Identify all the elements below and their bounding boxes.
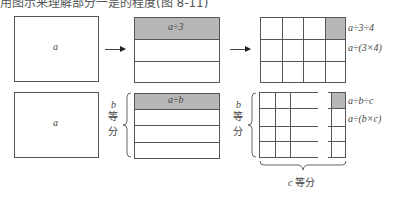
bottom-brace-label-text: 等分 [295, 177, 315, 189]
col-divider [325, 18, 326, 82]
caption-fragment: 用图示来理解部分一是的程度(图 8-11) [0, 0, 208, 10]
brace-label-deng-2: 等 [233, 111, 243, 123]
label-a-div-3x4: a÷(3×4) [348, 42, 382, 53]
arrow-icon-2 [230, 49, 250, 50]
brace-label-b-2: b [236, 99, 241, 110]
brace-label-b-1: b [111, 99, 116, 110]
brace-label-deng-1: 等 [108, 111, 118, 123]
label-a-div-3: a÷3 [168, 21, 184, 32]
brace-label-fen-2: 分 [233, 126, 243, 138]
grid-b-by-c [258, 91, 350, 161]
grid-3x4 [260, 17, 346, 83]
brace-label-fen-1: 分 [108, 126, 118, 138]
label-a-div-bxc: a÷(b×c) [348, 113, 381, 124]
col-divider [303, 18, 304, 82]
arrow-icon-1 [105, 49, 125, 50]
row-divider [135, 109, 219, 110]
left-brace-icon-2 [247, 92, 257, 158]
label-a-div-b: a÷b [168, 94, 184, 105]
row-divider [135, 61, 219, 62]
bottom-brace-icon [259, 160, 347, 172]
left-brace-icon-1 [122, 92, 132, 158]
label-a-div-b-div-c: a÷b÷c [348, 95, 373, 106]
shaded-cell [325, 18, 345, 39]
row-divider [135, 39, 219, 40]
label-a-top: a [53, 41, 58, 52]
label-a-div-3-div-4: a÷3÷4 [348, 22, 374, 33]
row-divider [135, 142, 219, 143]
row-divider [135, 125, 219, 126]
col-divider [282, 18, 283, 82]
label-a-bottom: a [53, 117, 58, 128]
bottom-brace-label-c: c [288, 177, 292, 188]
